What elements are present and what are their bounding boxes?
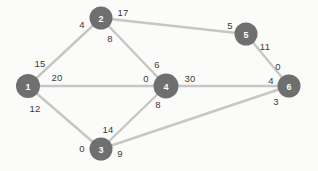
graph-node-1[interactable]: 1	[16, 74, 40, 98]
weight-4-6-near-6: 4	[268, 75, 273, 86]
graph-node-label-6: 6	[286, 82, 291, 92]
weight-1-4-near-1: 20	[52, 72, 63, 83]
weight-1-3-near-3: 0	[79, 143, 84, 154]
weight-1-2-near-2: 4	[79, 19, 84, 30]
graph-node-4[interactable]: 4	[154, 74, 179, 99]
weight-2-5-near-2: 17	[118, 7, 129, 18]
weight-4-6-near-4: 30	[185, 73, 196, 84]
weight-2-4-near-4: 6	[154, 59, 159, 70]
weight-3-6-near-3: 9	[117, 148, 122, 159]
graph-node-3[interactable]: 3	[90, 138, 113, 161]
weight-5-6-near-5: 11	[260, 41, 270, 52]
weight-5-6-near-6: 0	[275, 61, 280, 72]
graph-node-label-5: 5	[243, 30, 248, 40]
weight-3-6-near-6: 3	[273, 96, 278, 107]
graph-canvas: 123456	[0, 0, 318, 171]
weight-1-2-near-1: 15	[35, 58, 46, 69]
graph-edge-2-5	[101, 18, 246, 34]
graph-node-label-4: 4	[163, 82, 168, 92]
nodes-group: 123456	[16, 7, 301, 161]
graph-edge-3-6	[101, 86, 289, 149]
graph-node-6[interactable]: 6	[278, 75, 301, 98]
graph-edge-1-3	[28, 86, 101, 149]
weight-4-3-near-3: 14	[103, 124, 114, 135]
graph-edge-1-2	[28, 18, 101, 86]
weight-1-3-near-1: 12	[30, 103, 41, 114]
graph-node-5[interactable]: 5	[235, 23, 258, 46]
weight-2-4-near-2: 8	[107, 33, 112, 44]
weight-4-3-near-4: 8	[155, 99, 160, 110]
graph-node-2[interactable]: 2	[90, 7, 113, 30]
graph-node-label-3: 3	[98, 145, 103, 155]
graph-edge-4-3	[101, 86, 166, 149]
graph-node-label-2: 2	[98, 14, 103, 24]
graph-node-label-1: 1	[25, 82, 30, 92]
graph-diagram: 123456 1541758620030411012081493	[0, 0, 318, 171]
weight-2-5-near-5: 5	[227, 20, 232, 31]
graph-edge-2-4	[101, 18, 166, 86]
weight-1-4-near-4: 0	[143, 73, 148, 84]
